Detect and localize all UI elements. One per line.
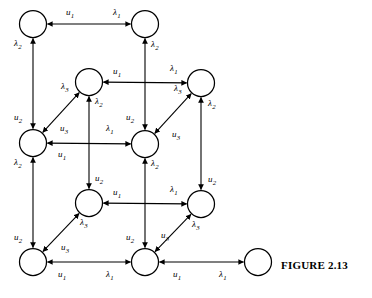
edge-label-e-d-lower-left-up: λ3	[79, 217, 88, 229]
edge-label-e-v-inner-upper-down: u2	[126, 112, 135, 124]
edge-label-e-d-lower-right-down: u3	[161, 230, 170, 242]
edge-label-e-h-top-back: u1	[66, 7, 74, 19]
node-n-center[interactable]	[132, 131, 159, 158]
edge-e-d-upper-right	[155, 94, 191, 134]
edge-label-e-h-midlower-back: u1	[113, 187, 121, 199]
edge-label-e-h-midleft-center-back: u1	[58, 149, 66, 161]
edge-label-e-d-upper-right-up: λ3	[173, 83, 182, 95]
node-n-bottom-center[interactable]	[132, 249, 159, 276]
node-n-mid-upper-right[interactable]	[188, 70, 215, 97]
edge-label-e-v-left-lower-down: u2	[14, 232, 23, 244]
node-n-top-right[interactable]	[132, 11, 159, 38]
node-n-mid-lower-left[interactable]	[76, 190, 103, 217]
node-n-top-left[interactable]	[20, 11, 47, 38]
figure-caption: FIGURE 2.13	[281, 259, 348, 271]
edge-label-e-h-bottom-left-back: u1	[58, 269, 66, 281]
edge-label-e-h-midupper-back: u1	[113, 66, 121, 78]
edge-label-e-d-lower-left-down: u3	[61, 242, 70, 254]
edge-label-e-h-top-fwd: λ1	[112, 7, 121, 19]
edge-label-e-v-right-upper-down: u2	[208, 174, 217, 186]
edge-label-e-v-left-upper-down: u2	[14, 112, 23, 124]
node-n-bottom-right-isolated[interactable]	[245, 249, 272, 276]
edge-label-e-h-bottom-right-back: u1	[173, 269, 181, 281]
edge-label-e-v-mid-upper-up: λ2	[94, 96, 103, 108]
node-n-bottom-left[interactable]	[20, 249, 47, 276]
edge-label-e-d-lower-right-up: λ3	[191, 219, 200, 231]
edge-label-e-d-upper-left-up: λ3	[60, 81, 69, 93]
edge-label-e-v-mid-upper-down: u2	[95, 173, 104, 185]
edge-label-e-v-left-upper-up: λ2	[13, 38, 22, 50]
edge-label-e-h-bottom-right-fwd: λ1	[218, 269, 227, 281]
edge-label-e-v-inner-upper-up: λ2	[150, 39, 159, 51]
edge-label-e-d-upper-left-down: u3	[60, 123, 69, 135]
figure-2-13-diagram: u1λ1u1λ1u1λ1u1λ1u1λ1u1λ1λ2u2λ2u2λ2u2λ2u2…	[0, 0, 372, 298]
edge-label-e-v-inner-lower-down: u2	[126, 232, 135, 244]
edge-label-e-v-left-lower-up: λ2	[13, 157, 22, 169]
edge-label-e-h-bottom-left-fwd: λ1	[105, 269, 114, 281]
edge-label-e-v-inner-lower-up: λ2	[150, 158, 159, 170]
node-n-mid-lower-right[interactable]	[188, 191, 215, 218]
edge-label-e-h-midleft-center-fwd: λ1	[105, 123, 114, 135]
edge-label-e-h-midupper-fwd: λ1	[169, 63, 178, 75]
edge-label-e-h-midlower-fwd: λ1	[169, 184, 178, 196]
node-n-mid-upper-left[interactable]	[76, 69, 103, 96]
edge-label-e-d-upper-right-down: u3	[172, 129, 181, 141]
node-n-mid-left[interactable]	[20, 130, 47, 157]
edge-label-e-v-right-upper-up: λ2	[207, 98, 216, 110]
